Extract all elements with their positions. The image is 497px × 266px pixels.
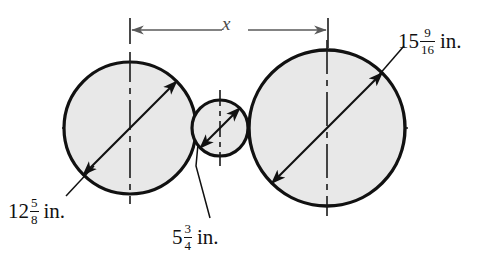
- right-fraction: 916: [420, 26, 435, 56]
- middle-circle-diameter-label: 534 in.: [172, 222, 219, 252]
- middle-numerator: 3: [184, 222, 193, 236]
- left-circle-diameter-label: 1258 in.: [8, 196, 65, 226]
- right-numerator: 9: [420, 26, 435, 40]
- right-whole-number: 15: [398, 29, 419, 53]
- middle-label-leader-line: [196, 144, 210, 218]
- middle-unit: in.: [197, 225, 219, 249]
- right-denominator: 16: [420, 43, 435, 57]
- middle-denominator: 4: [184, 239, 193, 253]
- middle-fraction: 34: [184, 222, 193, 252]
- middle-whole-number: 5: [172, 225, 183, 249]
- x-dimension-symbol: x: [222, 13, 230, 34]
- left-unit: in.: [44, 199, 66, 223]
- left-denominator: 8: [30, 213, 39, 227]
- left-fraction: 58: [30, 196, 39, 226]
- left-numerator: 5: [30, 196, 39, 210]
- right-circle-diameter-label: 15916 in.: [398, 26, 462, 56]
- left-whole-number: 12: [8, 199, 29, 223]
- x-dimension-label: x: [222, 14, 230, 33]
- right-unit: in.: [440, 29, 462, 53]
